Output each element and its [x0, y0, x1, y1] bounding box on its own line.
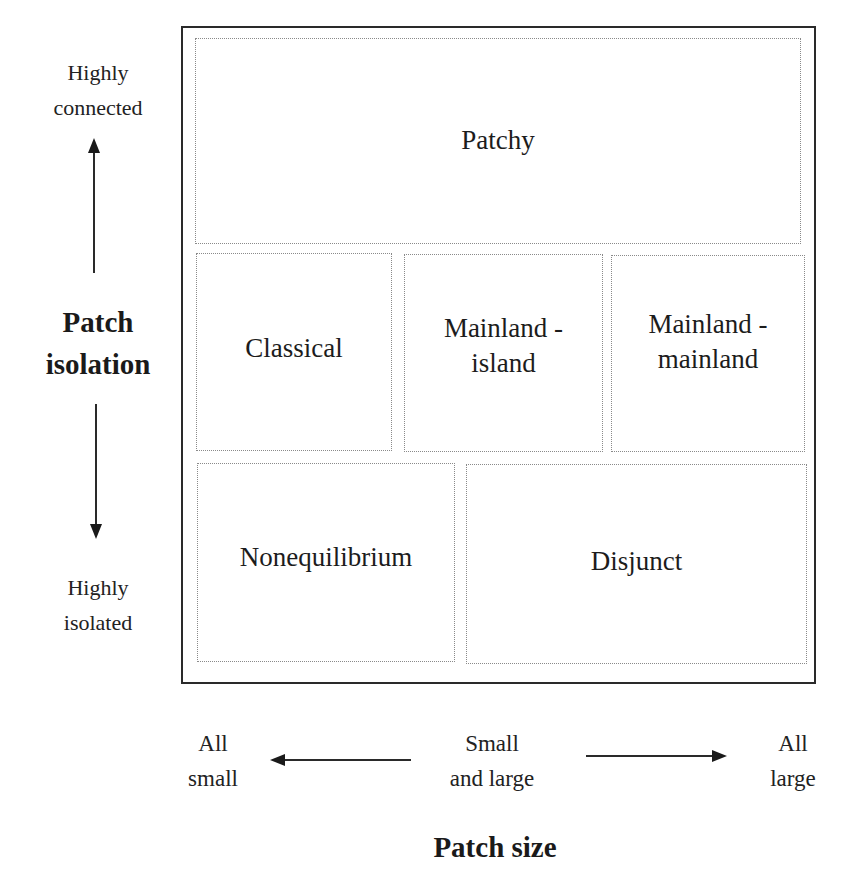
region-label: Patchy [461, 123, 535, 158]
y-axis-top-label: Highly connected [38, 55, 158, 125]
region-label-line1: Mainland - [648, 307, 767, 342]
region-mainland-mainland: Mainland - mainland [611, 255, 805, 452]
x-axis-left-label: All small [163, 726, 263, 796]
region-label-line1: Mainland - [444, 311, 563, 346]
down-arrow-icon [86, 404, 106, 540]
x-axis-right-label: All large [743, 726, 843, 796]
region-nonequilibrium: Nonequilibrium [197, 463, 455, 662]
region-label: Classical [245, 331, 342, 366]
region-patchy: Patchy [195, 38, 801, 244]
region-mainland-island: Mainland - island [404, 254, 603, 452]
region-label: Disjunct [591, 544, 683, 579]
x-axis-title: Patch size [380, 826, 610, 868]
y-axis-title: Patch isolation [18, 301, 178, 385]
region-disjunct: Disjunct [466, 464, 807, 664]
x-axis-center-label: Small and large [412, 726, 572, 796]
y-axis-bottom-label: Highly isolated [38, 570, 158, 640]
region-label-line2: island [444, 346, 563, 381]
region-label-line2: mainland [648, 342, 767, 377]
up-arrow-icon [84, 138, 104, 274]
right-arrow-icon [586, 746, 728, 766]
left-arrow-icon [270, 750, 412, 770]
region-classical: Classical [196, 253, 392, 451]
region-label: Nonequilibrium [240, 540, 412, 575]
